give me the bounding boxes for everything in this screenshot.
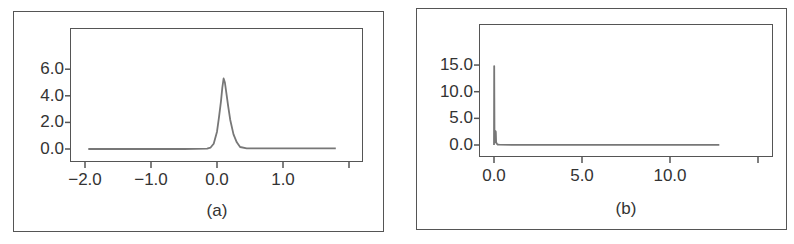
- panel-b-density-line: [494, 66, 719, 145]
- y-tick-label: 10.0: [423, 82, 473, 102]
- y-tick-label: 5.0: [423, 108, 473, 128]
- y-tick-label: 15.0: [423, 55, 473, 75]
- x-tick-label: 10.0: [653, 166, 686, 186]
- y-tick-label: 0.0: [423, 135, 473, 155]
- panel-b-caption: (b): [616, 199, 637, 219]
- x-tick-label: 0.0: [482, 166, 506, 186]
- x-tick-label: 5.0: [570, 166, 594, 186]
- panel-b-chart: [0, 0, 794, 244]
